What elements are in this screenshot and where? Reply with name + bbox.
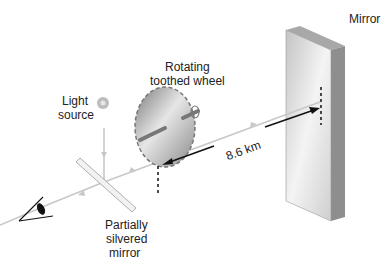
toothed-wheel-icon	[135, 87, 199, 195]
partial-label-line3: mirror	[109, 246, 140, 260]
partial-label-line2: silvered	[106, 232, 147, 246]
mirror-label: Mirror	[349, 12, 380, 26]
light-source-icon	[97, 97, 109, 109]
far-mirror	[286, 26, 345, 221]
partial-label-line1: Partially	[105, 218, 148, 232]
light-label-line2: source	[58, 108, 94, 122]
partially-silvered-mirror	[76, 158, 136, 212]
wheel-label-line2: toothed wheel	[150, 74, 225, 88]
wheel-label-line1: Rotating	[165, 60, 210, 74]
light-label-line1: Light	[62, 94, 88, 108]
diagram-canvas	[0, 0, 382, 265]
